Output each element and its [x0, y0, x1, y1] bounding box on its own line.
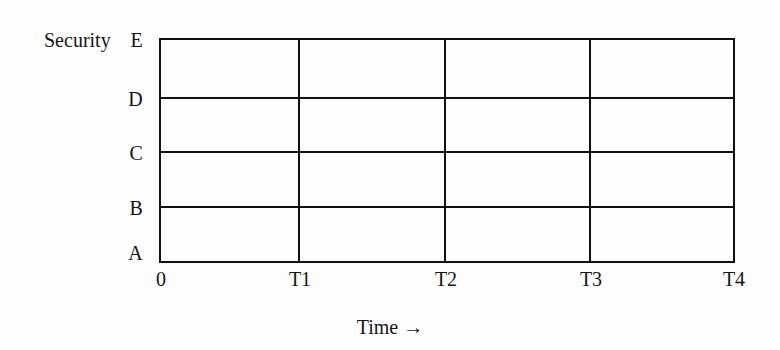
y-tick-label-C: C — [3, 143, 143, 163]
grid-lines — [159, 38, 735, 263]
security-time-grid-figure: Security E D C B A 0 — [0, 0, 780, 350]
y-tick-label-B: B — [3, 198, 143, 218]
y-tick-label-A: A — [3, 243, 143, 263]
y-tick-label-D: D — [3, 89, 143, 109]
plot-area — [159, 38, 735, 263]
y-tick-label-E: E — [3, 30, 143, 50]
x-tick-label-T1: T1 — [289, 268, 311, 290]
x-axis-title: Time — [357, 316, 399, 338]
x-tick-label-T3: T3 — [580, 268, 602, 290]
x-axis-title-container: Time→ — [0, 316, 780, 338]
right-arrow-icon: → — [398, 316, 423, 338]
x-tick-label-T4: T4 — [723, 268, 745, 290]
x-tick-label-T2: T2 — [435, 268, 457, 290]
x-tick-label-0: 0 — [156, 268, 166, 290]
